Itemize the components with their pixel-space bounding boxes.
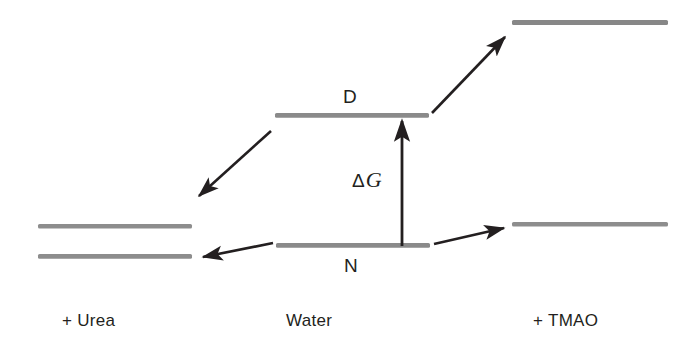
state-label-native: N xyxy=(344,255,358,277)
level-bar-urea-d xyxy=(38,224,192,229)
column-label-water: Water xyxy=(286,311,332,331)
n-to-tmao-arrow xyxy=(434,228,504,244)
state-label-denatured: D xyxy=(343,86,357,108)
level-bar-tmao-d xyxy=(512,20,668,25)
level-bar-tmao-n xyxy=(512,222,668,227)
column-label-tmao: + TMAO xyxy=(533,311,598,331)
d-to-tmao-arrow xyxy=(432,37,505,113)
d-to-urea-arrow xyxy=(199,131,271,196)
diagram-canvas xyxy=(0,0,698,355)
energy-levels xyxy=(38,20,668,259)
level-bar-urea-n xyxy=(38,254,192,259)
level-bar-water-d xyxy=(275,113,429,118)
column-label-urea: + Urea xyxy=(62,311,115,331)
g-symbol: G xyxy=(365,167,382,192)
transition-arrows xyxy=(199,37,505,257)
level-bar-water-n xyxy=(276,243,430,248)
n-to-urea-arrow xyxy=(203,243,273,257)
energy-level-diagram: D N ΔG + Urea Water + TMAO xyxy=(0,0,698,355)
delta-symbol: Δ xyxy=(352,170,365,191)
delta-g-label: ΔG xyxy=(352,167,382,193)
